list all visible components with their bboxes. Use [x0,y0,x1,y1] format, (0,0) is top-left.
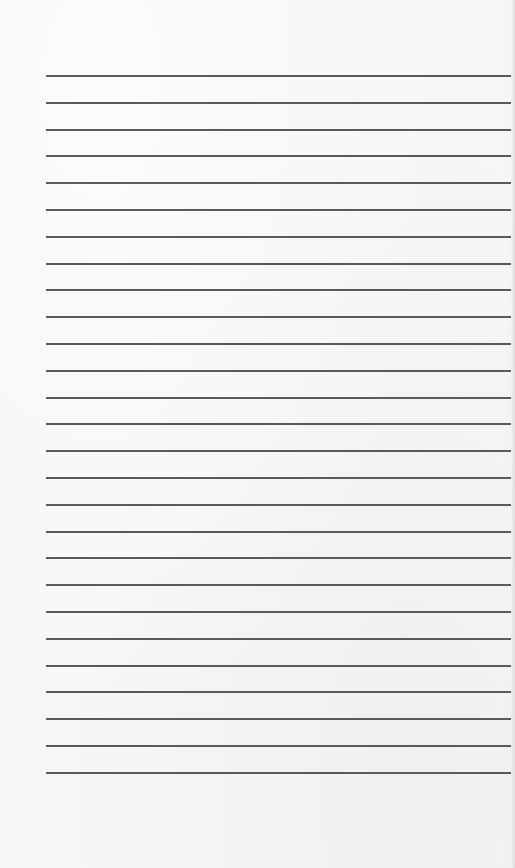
ruled-line [46,745,511,747]
ruled-line [46,182,511,184]
ruled-line [46,370,511,372]
ruled-line [46,531,511,533]
ruled-line [46,638,511,640]
ruled-line [46,129,511,131]
ruled-line [46,691,511,693]
ruled-line [46,236,511,238]
ruled-line [46,102,511,104]
ruled-line [46,504,511,506]
ruled-line [46,209,511,211]
ruled-line [46,397,511,399]
ruled-line [46,665,511,667]
paper-right-edge [511,0,515,868]
ruled-line [46,316,511,318]
ruled-line [46,289,511,291]
ruled-line [46,557,511,559]
ruled-line [46,75,511,77]
ruled-line [46,718,511,720]
ruled-line [46,584,511,586]
ruled-line [46,263,511,265]
ruled-line [46,155,511,157]
ruled-line [46,343,511,345]
ruled-line [46,450,511,452]
ruled-line [46,772,511,774]
ruled-line [46,477,511,479]
ruled-line [46,423,511,425]
lined-paper [0,0,515,868]
ruled-line [46,611,511,613]
